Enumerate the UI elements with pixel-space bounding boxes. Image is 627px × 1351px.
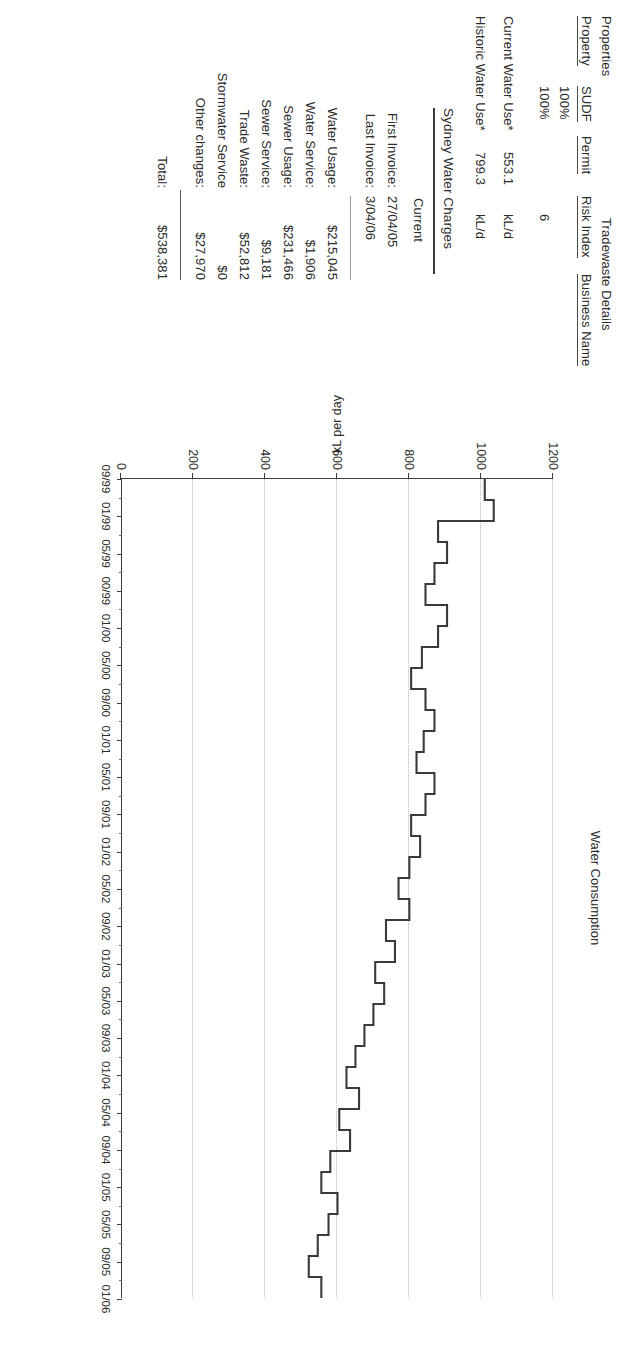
charge-label-water-usage: Water Usage: bbox=[325, 40, 339, 188]
current-water-use-unit: kL/d bbox=[501, 214, 515, 239]
y-tick-label: 0 bbox=[114, 463, 128, 470]
chart-title: Water Consumption bbox=[588, 831, 603, 945]
charge-value-sewer-usage: $231,466 bbox=[281, 190, 295, 280]
charge-value-trade-waste: $52,812 bbox=[237, 190, 251, 280]
x-tick-label: 01/06 bbox=[100, 1285, 112, 1314]
y-tick-label: 400 bbox=[258, 449, 272, 470]
series-water-consumption bbox=[122, 479, 553, 1298]
y-tick-label: 1200 bbox=[546, 442, 560, 470]
charge-label-sewer-usage: Sewer Usage: bbox=[281, 40, 295, 188]
x-tick-label: 09/00 bbox=[100, 688, 112, 717]
x-tick-label: 09/01 bbox=[100, 800, 112, 829]
charge-label-other-changes: Other changes: bbox=[193, 40, 207, 188]
x-tick-label: 05/00 bbox=[100, 651, 112, 680]
x-tick bbox=[117, 1299, 122, 1300]
x-tick-label: 01/05 bbox=[100, 1173, 112, 1202]
y-tick-label: 1000 bbox=[474, 442, 488, 470]
x-tick-label: 09/04 bbox=[100, 1136, 112, 1165]
y-tick-label: 200 bbox=[186, 449, 200, 470]
x-tick-label: 01/01 bbox=[100, 726, 112, 755]
table-row-1-sudf: 100% bbox=[557, 86, 571, 120]
table-row-2-risk-index: 6 bbox=[537, 214, 551, 221]
charge-value-other-changes: $27,970 bbox=[193, 190, 207, 280]
report-details-block: Properties Tradewaste Details Property S… bbox=[0, 0, 627, 420]
charges-column-header: Current bbox=[411, 198, 425, 242]
plot-area: 020040060080010001200 09/9901/9905/9900/… bbox=[121, 478, 553, 1298]
column-header-permit: Permit bbox=[577, 136, 593, 174]
charge-label-stormwater-service: Stormwater Service bbox=[215, 28, 229, 188]
x-tick-label: 01/04 bbox=[100, 1061, 112, 1090]
first-invoice-value: 27/04/05 bbox=[385, 196, 399, 247]
charge-value-total: $538,381 bbox=[155, 190, 169, 280]
x-tick-label: 01/99 bbox=[100, 502, 112, 531]
first-invoice-label: First Invoice: bbox=[385, 58, 399, 188]
table-row-2-sudf: 100% bbox=[537, 86, 551, 120]
historic-water-use-unit: kL/d bbox=[473, 214, 487, 239]
current-water-use-value: 553.1 bbox=[501, 152, 515, 185]
historic-water-use-value: 799.3 bbox=[473, 152, 487, 185]
y-axis-title-wrap: kL per day bbox=[121, 426, 553, 440]
column-header-sudf: SUDF bbox=[577, 86, 593, 122]
x-tick-label: 01/00 bbox=[100, 614, 112, 643]
x-tick-label: 05/02 bbox=[100, 875, 112, 904]
y-tick-label: 600 bbox=[330, 449, 344, 470]
column-header-business-name: Business Name bbox=[577, 274, 593, 366]
x-tick-label: 00/99 bbox=[100, 576, 112, 605]
last-invoice-label: Last Invoice: bbox=[363, 58, 377, 188]
x-tick-label: 09/99 bbox=[100, 465, 112, 494]
charges-heading-rule bbox=[433, 108, 435, 274]
report-sheet: Properties Tradewaste Details Property S… bbox=[0, 0, 627, 1351]
properties-heading: Properties bbox=[599, 16, 613, 76]
x-tick-label: 05/04 bbox=[100, 1098, 112, 1127]
x-tick-label: 05/99 bbox=[100, 539, 112, 568]
x-tick-label: 05/01 bbox=[100, 763, 112, 792]
x-tick-label: 09/03 bbox=[100, 1024, 112, 1053]
charge-value-sewer-service: $9,181 bbox=[259, 190, 273, 280]
y-axis-title: kL per day bbox=[330, 395, 344, 453]
scanned-page: Properties Tradewaste Details Property S… bbox=[0, 0, 627, 1351]
water-consumption-chart: Water Consumption kL per day 02004006008… bbox=[0, 420, 627, 1351]
charges-divider-top bbox=[350, 196, 351, 280]
historic-water-use-label: Historic Water Use* bbox=[473, 16, 487, 131]
x-tick-label: 09/02 bbox=[100, 912, 112, 941]
charge-label-trade-waste: Trade Waste: bbox=[237, 40, 251, 188]
x-tick-label: 01/02 bbox=[100, 837, 112, 866]
y-tick-label: 800 bbox=[402, 449, 416, 470]
last-invoice-value: 3/04/06 bbox=[363, 196, 377, 240]
x-tick-label: 09/05 bbox=[100, 1247, 112, 1276]
column-header-risk-index: Risk Index bbox=[577, 196, 593, 258]
x-tick-label: 01/03 bbox=[100, 949, 112, 978]
charge-value-water-usage: $215,045 bbox=[325, 190, 339, 280]
x-tick-label: 05/05 bbox=[100, 1210, 112, 1239]
charges-heading: Sydney Water Charges bbox=[440, 108, 455, 249]
charge-label-water-service: Water Service: bbox=[303, 40, 317, 188]
charge-value-water-service: $1,906 bbox=[303, 190, 317, 280]
column-header-property: Property bbox=[577, 16, 593, 66]
x-tick-label: 05/03 bbox=[100, 986, 112, 1015]
charge-label-sewer-service: Sewer Service: bbox=[259, 40, 273, 188]
charges-divider-total bbox=[180, 190, 181, 280]
charge-value-stormwater-service: $0 bbox=[215, 190, 229, 280]
current-water-use-label: Current Water Use* bbox=[501, 16, 515, 131]
tradewaste-heading: Tradewaste Details bbox=[599, 218, 613, 331]
charge-label-total: Total: bbox=[155, 40, 169, 188]
